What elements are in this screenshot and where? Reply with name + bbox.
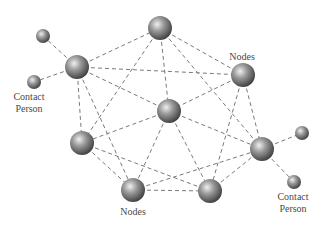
contact-person-label-right-line1: Contact: [277, 191, 308, 202]
contact-person-label-left-line1: Contact: [13, 91, 44, 102]
contact-person-sphere-CP2: [27, 75, 41, 89]
edge-UL-UR: [77, 67, 243, 75]
edge-C-BR: [169, 111, 210, 191]
edge-UL-C: [77, 67, 169, 111]
edge-T-R: [160, 28, 262, 149]
edge-UR-C: [169, 75, 243, 111]
edge-T-L: [82, 28, 160, 143]
edge-L-BR: [82, 143, 210, 191]
contact-person-sphere-CP4: [287, 175, 301, 189]
edge-C-R: [169, 111, 262, 149]
contact-person-sphere-CP3: [295, 126, 309, 140]
nodes-label-bottom: Nodes: [120, 206, 146, 217]
edge-UL-T: [77, 28, 160, 67]
edge-C-L: [82, 111, 169, 143]
edge-UL-BL: [77, 67, 133, 190]
edge-T-C: [160, 28, 169, 111]
node-sphere-L: [70, 131, 94, 155]
node-sphere-C: [157, 99, 181, 123]
edge-BL-R: [133, 149, 262, 190]
node-sphere-BL: [121, 178, 145, 202]
node-sphere-BR: [198, 179, 222, 203]
node-sphere-UL: [65, 55, 89, 79]
node-sphere-R: [250, 137, 274, 161]
network-diagram: Nodes Nodes Contact Person Contact Perso…: [0, 0, 331, 228]
contact-person-label-left-line2: Person: [15, 103, 42, 114]
node-sphere-T: [148, 16, 172, 40]
edge-UR-BR: [210, 75, 243, 191]
contact-person-label-right-line2: Person: [279, 203, 306, 214]
node-sphere-UR: [231, 63, 255, 87]
edge-C-BL: [133, 111, 169, 190]
contact-person-sphere-CP1: [36, 29, 50, 43]
nodes-label-top: Nodes: [229, 51, 255, 62]
